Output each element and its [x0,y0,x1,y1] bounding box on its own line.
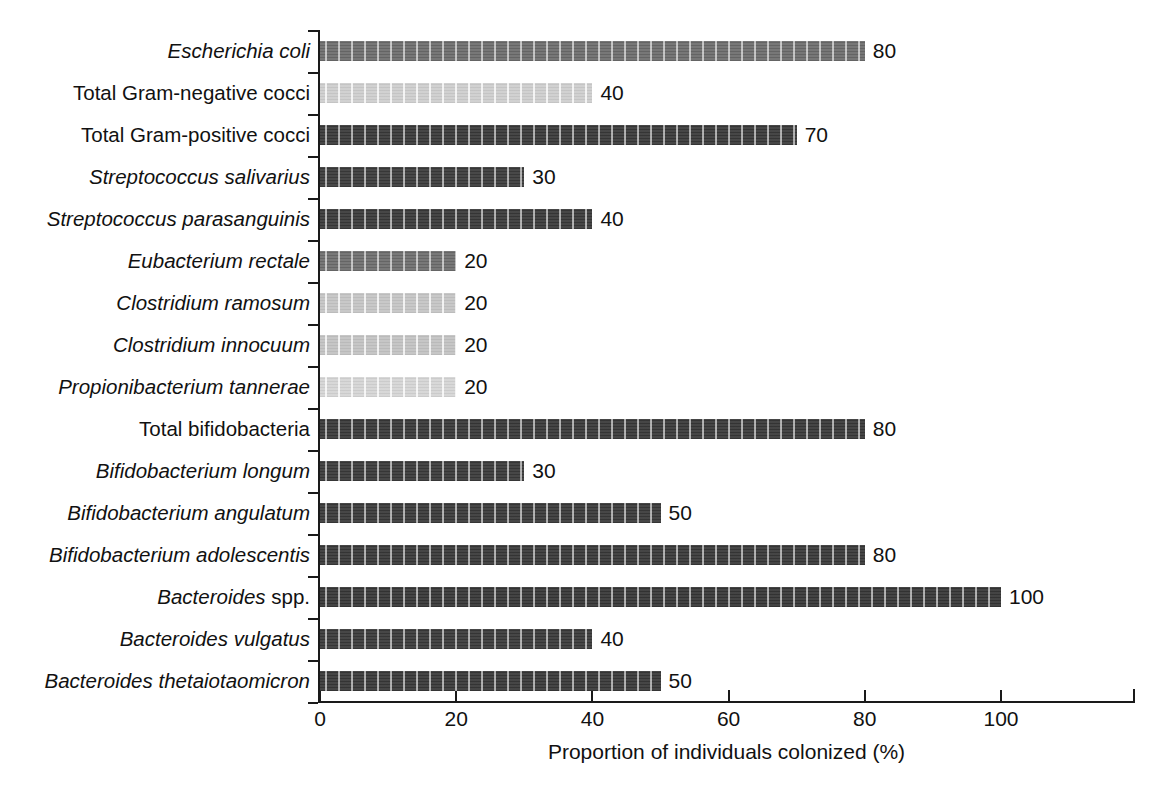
category-label: Total bifidobacteria [10,417,310,441]
category-label: Clostridium ramosum [10,291,310,315]
bar-value-label: 50 [669,669,692,693]
category-label: Streptococcus salivarius [10,165,310,189]
category-label: Bacteroides thetaiotaomicron [10,669,310,693]
bar-container: 40 [320,83,592,103]
bar-container: 50 [320,671,661,691]
bar-row: Bacteroides thetaiotaomicron50 [0,660,1175,702]
bar [320,587,1001,607]
bar-row: Propionibacterium tannerae20 [0,366,1175,408]
category-label: Bifidobacterium angulatum [10,501,310,525]
bar-row: Total Gram-positive cocci70 [0,114,1175,156]
bar-row: Escherichia coli80 [0,30,1175,72]
bar [320,125,797,145]
bar [320,293,456,313]
bar-row: Clostridium ramosum20 [0,282,1175,324]
bar-row: Streptococcus salivarius30 [0,156,1175,198]
bar-row: Clostridium innocuum20 [0,324,1175,366]
category-label: Eubacterium rectale [10,249,310,273]
category-label: Bifidobacterium longum [10,459,310,483]
bar-value-label: 40 [600,627,623,651]
x-axis-tick-label: 40 [581,707,604,731]
bar-container: 30 [320,167,524,187]
bar [320,461,524,481]
bar-value-label: 80 [873,543,896,567]
bar-value-label: 20 [464,375,487,399]
bar [320,251,456,271]
bar-container: 40 [320,629,592,649]
bar-value-label: 20 [464,291,487,315]
bar-container: 20 [320,335,456,355]
bar-container: 30 [320,461,524,481]
bar-value-label: 50 [669,501,692,525]
bar-row: Bifidobacterium adolescentis80 [0,534,1175,576]
bar-container: 20 [320,293,456,313]
bar [320,377,456,397]
category-label: Streptococcus parasanguinis [10,207,310,231]
bar-row: Streptococcus parasanguinis40 [0,198,1175,240]
bar-row: Bifidobacterium angulatum50 [0,492,1175,534]
x-axis-title: Proportion of individuals colonized (%) [318,740,1135,764]
bar-row: Bacteroides spp.100 [0,576,1175,618]
bar-value-label: 40 [600,81,623,105]
bar-value-label: 70 [805,123,828,147]
bar [320,335,456,355]
bar-row: Eubacterium rectale20 [0,240,1175,282]
bar-container: 80 [320,41,865,61]
bar [320,41,865,61]
bar-value-label: 20 [464,333,487,357]
plot-area: 020406080100 Escherichia coli80Total Gra… [0,0,1175,788]
bar [320,83,592,103]
category-label: Propionibacterium tannerae [10,375,310,399]
bar-value-label: 20 [464,249,487,273]
category-label: Bacteroides vulgatus [10,627,310,651]
x-axis-tick-label: 80 [853,707,876,731]
bar-value-label: 30 [532,459,555,483]
category-label: Bifidobacterium adolescentis [10,543,310,567]
bar-container: 20 [320,377,456,397]
bar-container: 20 [320,251,456,271]
bar [320,503,661,523]
bar-value-label: 100 [1009,585,1044,609]
category-label: Total Gram-positive cocci [10,123,310,147]
bar-container: 100 [320,587,1001,607]
bar-value-label: 40 [600,207,623,231]
bar-container: 80 [320,419,865,439]
bar-value-label: 30 [532,165,555,189]
bar [320,545,865,565]
bar-row: Total Gram-negative cocci40 [0,72,1175,114]
bar [320,629,592,649]
category-label: Bacteroides spp. [10,585,310,609]
bar-value-label: 80 [873,39,896,63]
bar [320,209,592,229]
x-axis-tick-label: 60 [717,707,740,731]
bar-row: Bifidobacterium longum30 [0,450,1175,492]
bar-container: 50 [320,503,661,523]
category-label: Total Gram-negative cocci [10,81,310,105]
x-axis-tick-label: 0 [314,707,326,731]
bar-chart: 020406080100 Escherichia coli80Total Gra… [0,0,1175,788]
bar-container: 70 [320,125,797,145]
bar-container: 40 [320,209,592,229]
bar-value-label: 80 [873,417,896,441]
bar-row: Bacteroides vulgatus40 [0,618,1175,660]
bar [320,671,661,691]
x-axis-tick-label: 20 [445,707,468,731]
bar [320,419,865,439]
x-axis-tick-label: 100 [983,707,1018,731]
bar [320,167,524,187]
category-label: Clostridium innocuum [10,333,310,357]
y-axis-tick [308,702,318,704]
bar-container: 80 [320,545,865,565]
category-label: Escherichia coli [10,39,310,63]
bar-row: Total bifidobacteria80 [0,408,1175,450]
